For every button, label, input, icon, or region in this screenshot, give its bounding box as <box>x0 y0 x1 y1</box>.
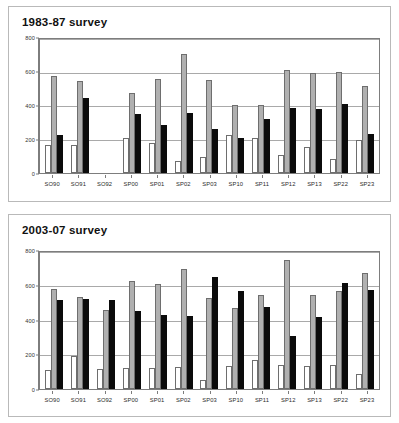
page-title-2: 2003-07 survey <box>22 224 107 236</box>
x-axis-tick-label: SP01 <box>144 181 170 187</box>
bar-series-3-black <box>109 300 115 389</box>
x-axis-tick-mark <box>236 175 237 178</box>
bar-series-3-black <box>342 283 348 389</box>
x-axis-tick-label: SP10 <box>223 181 249 187</box>
bar-group <box>145 39 171 173</box>
x-axis-group: SP13 <box>301 175 327 197</box>
bar-group <box>300 39 326 173</box>
y-axis-tick-label: 200 <box>25 137 35 143</box>
y-axis-2: 0200400600800 <box>15 251 39 390</box>
x-axis-group: SP11 <box>249 391 275 413</box>
x-axis-group: SP10 <box>223 175 249 197</box>
x-axis-tick-label: SP11 <box>249 397 275 403</box>
y-axis-1: 0200400600800 <box>15 38 39 174</box>
x-axis-tick-label: SP12 <box>275 397 301 403</box>
x-axis-group: SP22 <box>328 175 354 197</box>
x-axis-group: SP23 <box>354 175 380 197</box>
x-axis-tick-label: SO91 <box>65 397 91 403</box>
x-axis-tick-mark <box>183 175 184 178</box>
bar-series-3-black <box>161 315 167 389</box>
bar-group <box>352 252 378 389</box>
x-axis-2: SO90SO91SO92SP00SP01SP02SP03SP10SP11SP12… <box>39 391 380 413</box>
x-axis-tick-label: SP00 <box>118 397 144 403</box>
x-axis-tick-mark <box>210 175 211 178</box>
x-axis-tick-mark <box>52 391 53 394</box>
x-axis-tick-label: SP12 <box>275 181 301 187</box>
x-axis-tick-label: SP03 <box>196 181 222 187</box>
x-axis-tick-mark <box>52 175 53 178</box>
gridline <box>40 389 379 390</box>
x-axis-tick-mark <box>262 391 263 394</box>
x-axis-group: SP02 <box>170 175 196 197</box>
bar-group <box>119 39 145 173</box>
x-axis-group: SP01 <box>144 391 170 413</box>
bar-series-3-black <box>212 277 218 389</box>
x-axis-group: SP10 <box>223 391 249 413</box>
x-axis-group: SO92 <box>91 391 117 413</box>
x-axis-group: SP03 <box>196 175 222 197</box>
x-axis-tick-label: SO90 <box>39 397 65 403</box>
plot-area-1 <box>39 38 380 174</box>
bar-group <box>222 252 248 389</box>
x-axis-tick-label: SP13 <box>301 181 327 187</box>
bar-series-3-black <box>342 104 348 173</box>
x-axis-group: SP01 <box>144 175 170 197</box>
x-axis-tick-mark <box>262 175 263 178</box>
bar-group <box>197 39 223 173</box>
bar-series-3-black <box>83 98 89 173</box>
bar-series-3-black <box>264 307 270 389</box>
x-axis-tick-label: SP22 <box>328 181 354 187</box>
bar-series-3-black <box>316 317 322 389</box>
x-axis-group: SO90 <box>39 175 65 197</box>
x-axis-group: SP22 <box>328 391 354 413</box>
bar-series-3-black <box>212 129 218 173</box>
x-axis-tick-mark <box>314 391 315 394</box>
x-axis-group: SO91 <box>65 175 91 197</box>
bar-series-3-black <box>161 125 167 173</box>
x-axis-tick-label: SO91 <box>65 181 91 187</box>
bar-group <box>171 252 197 389</box>
bar-series-3-black <box>290 108 296 173</box>
x-axis-tick-label: SO92 <box>91 397 117 403</box>
page-title-1: 1983-87 survey <box>22 16 107 28</box>
bar-series-3-black <box>187 113 193 173</box>
bar-group <box>41 252 67 389</box>
bar-group <box>67 39 93 173</box>
x-axis-tick-mark <box>236 391 237 394</box>
x-axis-group: SO92 <box>91 175 117 197</box>
y-axis-tick-label: 800 <box>25 248 35 254</box>
x-axis-tick-label: SP23 <box>354 397 380 403</box>
bar-group <box>326 252 352 389</box>
plot-area-2 <box>39 251 380 390</box>
bar-group <box>248 39 274 173</box>
x-axis-tick-mark <box>105 175 106 178</box>
bar-group <box>67 252 93 389</box>
bar-group <box>197 252 223 389</box>
bar-series-3-black <box>57 135 63 173</box>
bar-group <box>274 39 300 173</box>
x-axis-tick-label: SP00 <box>118 181 144 187</box>
bar-group <box>93 39 119 173</box>
bar-group <box>274 252 300 389</box>
x-axis-tick-mark <box>157 391 158 394</box>
x-axis-tick-label: SP13 <box>301 397 327 403</box>
x-axis-tick-mark <box>341 175 342 178</box>
x-axis-group: SO90 <box>39 391 65 413</box>
x-axis-tick-label: SP03 <box>196 397 222 403</box>
y-axis-tick-label: 400 <box>25 318 35 324</box>
y-axis-tick-label: 0 <box>32 387 35 393</box>
y-axis-tick-label: 800 <box>25 35 35 41</box>
figure-root: 1983-87 survey 0200400600800 SO90SO91SO9… <box>0 0 399 423</box>
x-axis-tick-mark <box>78 391 79 394</box>
x-axis-tick-label: SP10 <box>223 397 249 403</box>
x-axis-tick-mark <box>210 391 211 394</box>
x-axis-group: SP23 <box>354 391 380 413</box>
y-axis-tick-label: 400 <box>25 103 35 109</box>
y-axis-tick-label: 600 <box>25 69 35 75</box>
bar-group <box>326 39 352 173</box>
y-axis-tick-label: 0 <box>32 171 35 177</box>
y-axis-tick-label: 600 <box>25 283 35 289</box>
bar-series-3-black <box>83 299 89 389</box>
x-axis-group: SP00 <box>118 391 144 413</box>
bar-series-3-black <box>264 119 270 173</box>
